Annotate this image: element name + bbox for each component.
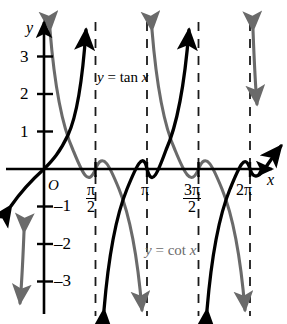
y-tick-label-neg3: –3 [54, 272, 71, 289]
x-tick-label-3pi-over-2-denominator: 2 [183, 198, 201, 215]
plot-canvas [0, 0, 287, 324]
cot-equation-operator: = cot [152, 242, 190, 258]
cot-branch-right-of-2pi [253, 30, 257, 104]
y-tick-label-neg1: –1 [54, 197, 71, 214]
x-axis-label: x [267, 172, 274, 188]
x-tick-label-pi: π [141, 182, 149, 198]
y-tick-label-2: 2 [20, 85, 29, 102]
cot-branch-left-of-0 [20, 232, 24, 303]
x-tick-label-3pi-over-2: 3π 2 [183, 182, 201, 216]
x-tick-label-pi-over-2-numerator: π [86, 182, 96, 198]
tan-equation-label: y = tan x [97, 70, 148, 85]
tan-equation-rhs: x [142, 69, 149, 85]
origin-label: O [48, 178, 59, 193]
cot-equation-rhs: x [190, 242, 197, 258]
tan-equation-operator: = tan [104, 69, 142, 85]
cot-equation-label: y = cot x [145, 243, 196, 258]
tan-cot-graph-figure: y x O 3 2 1 –1 –2 –3 π 2 π 3π 2 2π y = t… [0, 0, 287, 324]
x-tick-label-pi-over-2: π 2 [86, 182, 96, 216]
x-tick-label-pi-over-2-denominator: 2 [86, 198, 96, 215]
y-tick-label-1: 1 [20, 123, 29, 140]
y-tick-label-neg2: –2 [54, 235, 71, 252]
x-tick-label-2pi: 2π [236, 182, 252, 198]
x-tick-label-3pi-over-2-numerator: 3π [183, 182, 201, 198]
y-tick-label-3: 3 [20, 48, 29, 65]
y-axis-label: y [26, 20, 33, 36]
tan-equation-lhs: y [97, 69, 104, 85]
cot-equation-lhs: y [145, 242, 152, 258]
